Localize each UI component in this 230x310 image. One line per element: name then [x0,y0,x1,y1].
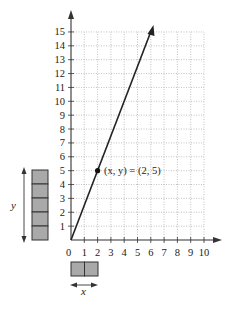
svg-text:3: 3 [60,193,65,204]
svg-text:4: 4 [60,179,66,190]
svg-text:12: 12 [55,68,66,79]
svg-text:10: 10 [199,247,210,258]
data-point [95,168,100,173]
svg-text:1: 1 [60,221,65,232]
svg-text:8: 8 [60,124,65,135]
svg-text:10: 10 [55,96,66,107]
svg-text:2: 2 [60,207,65,218]
svg-text:4: 4 [122,247,128,258]
svg-text:6: 6 [60,151,65,162]
svg-text:9: 9 [188,247,193,258]
svg-text:5: 5 [60,165,65,176]
svg-text:3: 3 [108,247,113,258]
y-blocks [22,167,49,243]
svg-text:7: 7 [60,137,65,148]
grid [71,32,204,240]
x-blocks [70,262,98,288]
svg-text:14: 14 [55,40,66,51]
point-label: (x, y) = (2, 5) [104,165,161,177]
svg-text:6: 6 [148,247,153,258]
graph: 12345678910123456789101112131415 (x, y) … [0,0,230,310]
svg-text:1: 1 [82,247,87,258]
svg-text:8: 8 [175,247,180,258]
svg-text:5: 5 [135,247,140,258]
data-line [71,25,154,240]
y-block-label: y [10,199,16,211]
svg-text:2: 2 [95,247,100,258]
svg-text:13: 13 [55,54,66,65]
origin-label: 0 [66,247,71,258]
svg-text:15: 15 [55,26,66,37]
svg-text:9: 9 [60,110,65,121]
x-block-label: x [80,285,86,297]
svg-text:11: 11 [55,82,65,93]
svg-text:7: 7 [161,247,166,258]
